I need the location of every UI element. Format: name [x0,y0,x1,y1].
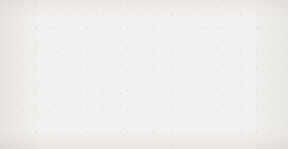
graph-canvas [0,0,288,149]
graphical-model-figure [0,0,288,149]
